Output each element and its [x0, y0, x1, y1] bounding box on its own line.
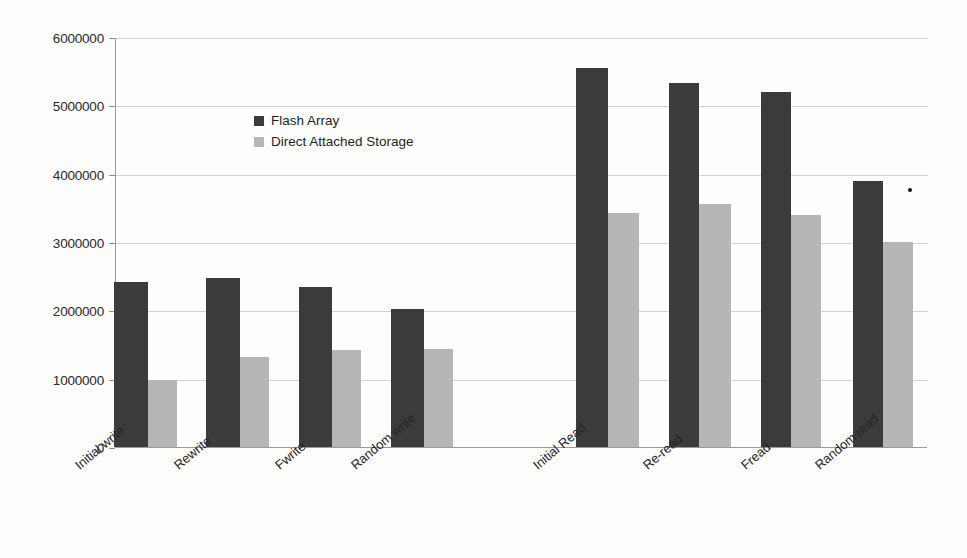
legend-item: Direct Attached Storage: [254, 131, 414, 152]
plot-area: [115, 38, 927, 448]
bar-flash-array: [576, 68, 608, 447]
legend-label: Direct Attached Storage: [271, 134, 414, 149]
bar-flash-array: [669, 83, 699, 447]
legend-label: Flash Array: [271, 113, 339, 128]
y-tick-label: 1000000: [53, 372, 104, 387]
bar-flash-array: [299, 287, 332, 447]
y-tick-label: 4000000: [53, 167, 104, 182]
bar-direct-attached-storage: [424, 349, 453, 447]
y-tick-label: 3000000: [53, 236, 104, 251]
legend-item: Flash Array: [254, 110, 414, 131]
bar-flash-array: [853, 181, 883, 447]
chart-legend: Flash ArrayDirect Attached Storage: [254, 110, 414, 152]
legend-swatch-icon: [254, 116, 264, 126]
y-tick-label: 2000000: [53, 304, 104, 319]
gridline: [116, 175, 928, 176]
bar-chart-figure: 0100000020000003000000400000050000006000…: [0, 0, 967, 558]
bar-direct-attached-storage: [608, 213, 639, 447]
y-tick-label: 6000000: [53, 31, 104, 46]
legend-swatch-icon: [254, 137, 264, 147]
bar-direct-attached-storage: [883, 242, 913, 447]
gridline: [116, 106, 928, 107]
scan-speck-artifact: [908, 188, 912, 192]
bar-flash-array: [114, 282, 148, 447]
bar-flash-array: [206, 278, 240, 447]
bar-direct-attached-storage: [148, 380, 177, 447]
y-tick-label: 5000000: [53, 99, 104, 114]
bar-direct-attached-storage: [791, 215, 821, 447]
bar-flash-array: [761, 92, 791, 447]
bar-direct-attached-storage: [332, 350, 361, 447]
bar-direct-attached-storage: [699, 204, 731, 447]
gridline: [116, 38, 928, 39]
y-axis: 0100000020000003000000400000050000006000…: [0, 0, 112, 558]
bar-direct-attached-storage: [240, 357, 269, 447]
